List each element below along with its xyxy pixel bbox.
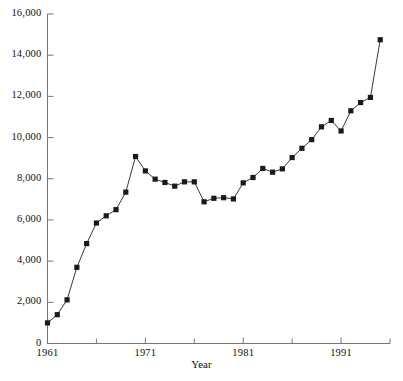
axis-lines: [48, 14, 391, 344]
data-point: [162, 180, 167, 185]
data-point: [113, 207, 118, 212]
data-point: [133, 154, 138, 159]
y-tick-label: 6,000: [17, 213, 42, 224]
data-point: [290, 155, 295, 160]
data-point: [368, 95, 373, 100]
data-point: [358, 100, 363, 105]
data-point: [192, 179, 197, 184]
x-tick-label: 1991: [311, 347, 371, 358]
x-tick-label: 1971: [115, 347, 175, 358]
y-tick-label: 10,000: [11, 131, 41, 142]
data-point: [143, 168, 148, 173]
data-point: [153, 177, 158, 182]
x-axis-title: Year: [0, 358, 403, 370]
data-point: [319, 124, 324, 129]
y-tick-label: 12,000: [11, 89, 41, 100]
data-point: [221, 195, 226, 200]
x-tick-label: 1961: [18, 347, 78, 358]
y-tick-label: 8,000: [17, 172, 42, 183]
x-axis-ticks: [48, 338, 391, 344]
data-markers: [45, 37, 383, 325]
data-point: [280, 166, 285, 171]
data-point: [84, 241, 89, 246]
y-tick-label: 4,000: [17, 254, 42, 265]
data-point: [74, 265, 79, 270]
data-point: [260, 166, 265, 171]
data-point: [123, 190, 128, 195]
data-point: [55, 312, 60, 317]
plot-area: [0, 0, 403, 381]
data-point: [329, 118, 334, 123]
data-point: [250, 175, 255, 180]
y-tick-label: 16,000: [11, 7, 41, 18]
data-point: [45, 320, 50, 325]
line-chart: 02,0004,0006,0008,00010,00012,00014,0001…: [0, 0, 403, 381]
data-point: [378, 37, 383, 42]
data-point: [231, 196, 236, 201]
y-tick-label: 14,000: [11, 48, 41, 59]
data-point: [299, 146, 304, 151]
data-point: [104, 213, 109, 218]
data-point: [241, 180, 246, 185]
data-point: [309, 137, 314, 142]
x-tick-label: 1981: [213, 347, 273, 358]
data-point: [172, 184, 177, 189]
data-point: [64, 297, 69, 302]
data-point: [338, 128, 343, 133]
data-point: [201, 199, 206, 204]
data-point: [348, 108, 353, 113]
y-tick-label: 2,000: [17, 295, 42, 306]
data-point: [270, 170, 275, 175]
data-point: [182, 179, 187, 184]
data-point: [94, 220, 99, 225]
y-axis-ticks: [48, 14, 54, 344]
data-point: [211, 196, 216, 201]
data-line: [48, 40, 381, 323]
